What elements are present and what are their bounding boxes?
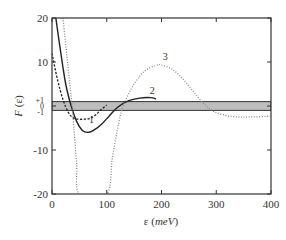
x-tick-label: 300 xyxy=(208,198,225,210)
x-axis-title: ε (meV) xyxy=(144,215,179,228)
y-tick-label: 10 xyxy=(37,56,49,68)
y-axis-title: F (ε) xyxy=(12,95,25,118)
x-tick-label: 100 xyxy=(99,198,116,210)
x-tick-label: 200 xyxy=(153,198,170,210)
x-tick-label: 400 xyxy=(263,198,280,210)
y-minor-label: -1 xyxy=(37,108,44,117)
curve-label-1: 1 xyxy=(89,114,94,125)
y-tick-label: -20 xyxy=(33,188,48,200)
x-tick-label: 0 xyxy=(49,198,55,210)
curve-label-2: 2 xyxy=(150,85,155,96)
axis-ticks: 0100200300400-20-101020+10-1 xyxy=(33,12,279,210)
chart: 0100200300400-20-101020+10-1 123 F (ε) ε… xyxy=(0,0,286,240)
shaded-band xyxy=(52,102,271,111)
curve-labels: 123 xyxy=(89,51,168,125)
y-tick-label: -10 xyxy=(33,144,48,156)
confidence-band xyxy=(52,102,271,111)
curve-label-3: 3 xyxy=(163,51,168,62)
y-tick-label: 20 xyxy=(37,12,49,24)
